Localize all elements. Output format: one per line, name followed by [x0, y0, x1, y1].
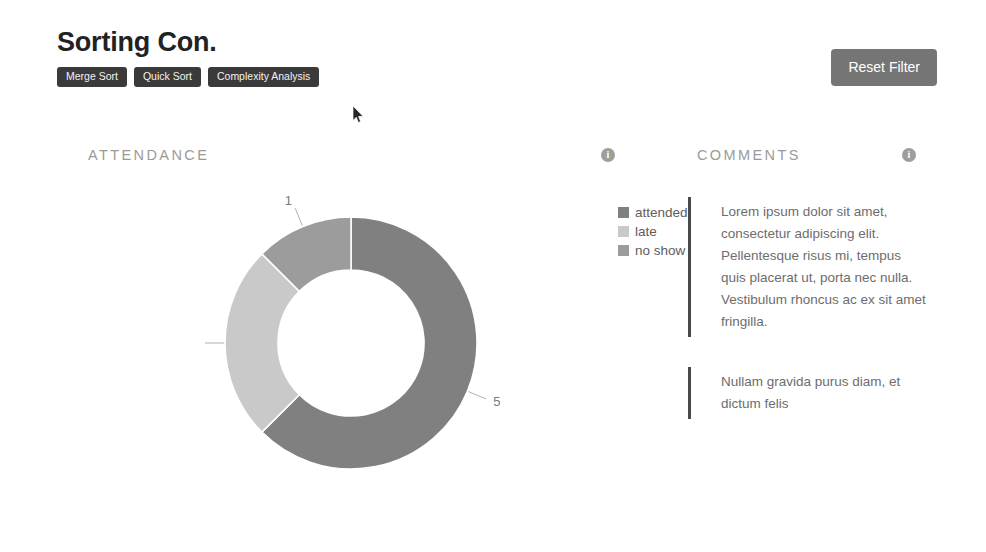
info-icon-comments[interactable]: i — [902, 148, 916, 162]
comments-panel-header: COMMENTS i — [697, 147, 916, 163]
legend-item-no-show[interactable]: no show — [618, 243, 688, 258]
donut-leader-line — [468, 392, 486, 399]
comment-item: Lorem ipsum dolor sit amet, consectetur … — [688, 197, 928, 337]
dashboard-page: Sorting Con. Merge Sort Quick Sort Compl… — [0, 0, 986, 552]
comment-item: Nullam gravida purus diam, et dictum fel… — [688, 367, 928, 419]
legend-label-late: late — [635, 224, 657, 239]
comment-text: Nullam gravida purus diam, et dictum fel… — [721, 371, 928, 415]
filter-tag-complexity-analysis[interactable]: Complexity Analysis — [208, 67, 319, 88]
attendance-donut-chart[interactable]: 521 — [201, 193, 501, 493]
attendance-chart-area: 521 attended late no show — [88, 185, 615, 505]
legend-swatch-attended — [618, 207, 629, 218]
mouse-cursor-icon — [352, 106, 364, 124]
page-title: Sorting Con. — [57, 28, 937, 58]
comment-text: Lorem ipsum dolor sit amet, consectetur … — [721, 201, 928, 333]
legend-swatch-no-show — [618, 245, 629, 256]
legend-item-late[interactable]: late — [618, 224, 688, 239]
legend-label-attended: attended — [635, 205, 688, 220]
info-icon-attendance[interactable]: i — [601, 148, 615, 162]
legend-swatch-late — [618, 226, 629, 237]
chart-legend: attended late no show — [618, 205, 688, 262]
attendance-title: ATTENDANCE — [88, 147, 209, 163]
filter-tag-quick-sort[interactable]: Quick Sort — [134, 67, 201, 88]
donut-leader-line — [295, 208, 302, 226]
comments-title: COMMENTS — [697, 147, 801, 163]
legend-item-attended[interactable]: attended — [618, 205, 688, 220]
attendance-panel-header: ATTENDANCE i — [88, 147, 615, 163]
legend-label-no-show: no show — [635, 243, 685, 258]
page-header: Sorting Con. Merge Sort Quick Sort Compl… — [57, 28, 937, 87]
filter-tag-merge-sort[interactable]: Merge Sort — [57, 67, 127, 88]
reset-filter-button[interactable]: Reset Filter — [831, 49, 937, 86]
filter-tag-list: Merge Sort Quick Sort Complexity Analysi… — [57, 67, 937, 88]
comments-list: Lorem ipsum dolor sit amet, consectetur … — [688, 197, 928, 449]
donut-slice-label: 5 — [493, 394, 500, 409]
donut-slice-label: 1 — [285, 193, 292, 208]
